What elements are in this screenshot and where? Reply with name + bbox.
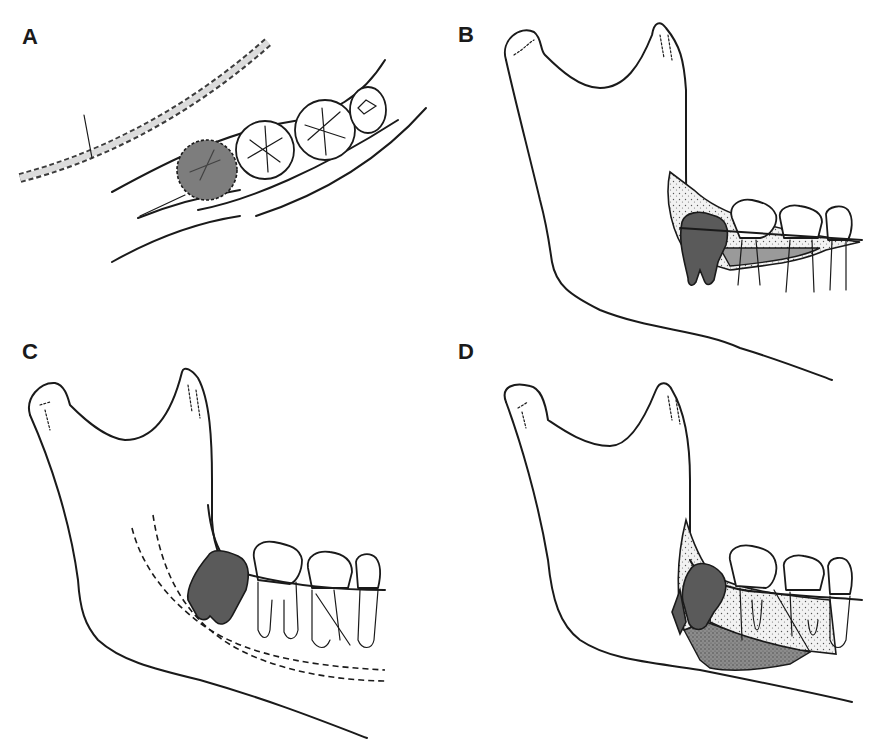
impacted-third-molar — [188, 551, 249, 624]
impacted-third-molar — [681, 212, 728, 285]
oblique-line — [316, 594, 350, 645]
illustration-canvas — [0, 0, 872, 748]
panel-d-drawing — [505, 383, 862, 702]
distal-incision — [140, 195, 185, 216]
premolar-crown — [826, 207, 852, 240]
figure: A B C D — [0, 0, 872, 748]
panel-b-drawing — [505, 23, 862, 380]
panel-label-d: D — [458, 341, 474, 363]
panel-label-c: C — [22, 341, 38, 363]
impacted-molar-occlusal — [177, 140, 237, 200]
outer-contour-1 — [112, 216, 240, 262]
panel-a-drawing — [20, 42, 426, 262]
panel-label-a: A — [22, 26, 38, 48]
first-molar-crown — [780, 206, 822, 239]
ramus-outline — [29, 369, 240, 575]
condyle-detail — [514, 35, 672, 60]
premolar-crown — [356, 554, 380, 588]
condyle-detail — [518, 396, 680, 428]
tooth-roots — [258, 582, 378, 648]
ramus-outline — [505, 383, 690, 560]
first-molar-crown — [308, 552, 352, 588]
second-molar-crown — [730, 546, 777, 588]
panel-label-b: B — [458, 24, 474, 46]
premolar-crown — [828, 558, 852, 594]
first-molar-crown — [784, 556, 824, 591]
panel-c-drawing — [29, 369, 385, 738]
premolar-occlusal — [350, 87, 386, 133]
first-molar-occlusal — [295, 100, 355, 160]
